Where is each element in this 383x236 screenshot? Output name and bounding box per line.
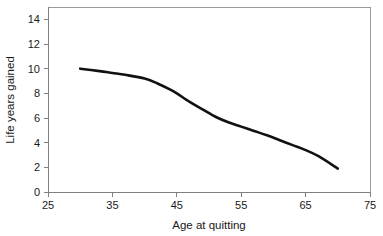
x-tick-label: 25 [42, 199, 54, 211]
x-tick-label: 35 [106, 199, 118, 211]
chart-figure: 0 2 4 6 8 10 12 14 25 35 45 55 65 75 [0, 0, 383, 236]
y-tick-labels: 0 2 4 6 8 10 12 14 [28, 13, 40, 198]
x-tick-label: 45 [171, 199, 183, 211]
data-line-series [80, 69, 338, 169]
y-tick-marks [44, 19, 48, 192]
line-chart: 0 2 4 6 8 10 12 14 25 35 45 55 65 75 [0, 0, 383, 236]
y-tick-label: 6 [34, 112, 40, 124]
x-tick-label: 55 [235, 199, 247, 211]
y-tick-label: 8 [34, 87, 40, 99]
y-tick-label: 0 [34, 186, 40, 198]
x-tick-labels: 25 35 45 55 65 75 [42, 199, 376, 211]
x-tick-label: 75 [364, 199, 376, 211]
plot-frame [48, 7, 370, 192]
x-tick-marks [48, 192, 370, 197]
y-axis-title: Life years gained [4, 56, 16, 144]
y-tick-label: 2 [34, 161, 40, 173]
y-tick-label: 10 [28, 63, 40, 75]
x-axis-title: Age at quitting [172, 219, 246, 231]
y-tick-label: 4 [34, 137, 40, 149]
y-tick-label: 12 [28, 38, 40, 50]
x-tick-label: 65 [299, 199, 311, 211]
y-tick-label: 14 [28, 13, 40, 25]
